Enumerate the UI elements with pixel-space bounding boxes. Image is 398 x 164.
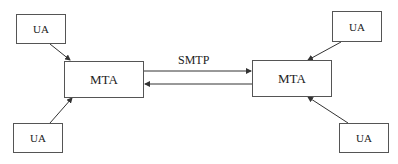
edge-ua-bottom-left-to-mta-left: [50, 98, 72, 123]
smtp-label: SMTP: [178, 53, 209, 68]
node-label: UA: [349, 21, 365, 33]
ua-top-left-node: UA: [16, 14, 66, 44]
node-label: UA: [30, 132, 46, 144]
ua-bottom-left-node: UA: [13, 123, 63, 153]
edge-ua-top-right-to-mta-right: [308, 42, 341, 60]
node-label: MTA: [278, 71, 306, 87]
ua-bottom-right-node: UA: [339, 123, 389, 153]
node-label: MTA: [90, 72, 118, 88]
edge-ua-top-left-to-mta-left: [50, 44, 70, 60]
node-label: UA: [356, 132, 372, 144]
edge-ua-bottom-right-to-mta-right: [308, 97, 348, 123]
mta-left-node: MTA: [64, 61, 144, 98]
node-label: UA: [33, 23, 49, 35]
ua-top-right-node: UA: [332, 11, 382, 42]
mta-right-node: MTA: [252, 60, 332, 97]
